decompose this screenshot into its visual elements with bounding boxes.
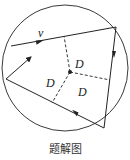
distance-label-right: D xyxy=(77,85,87,99)
dashed-line-bottom xyxy=(52,72,70,103)
bottom-segment xyxy=(6,79,104,128)
top-segment xyxy=(11,27,116,46)
boundary-circle xyxy=(2,5,128,131)
center-point xyxy=(68,70,72,74)
velocity-label: v xyxy=(38,26,44,40)
dashed-line-top xyxy=(64,36,70,72)
diagram-canvas: v D D D 题解图 xyxy=(0,0,130,160)
figure-caption: 题解图 xyxy=(49,142,82,156)
distance-label-left: D xyxy=(45,76,55,90)
dashed-line-right xyxy=(70,72,110,80)
initial-velocity-arrow xyxy=(6,57,31,79)
distance-label-top: D xyxy=(74,57,84,71)
right-segment xyxy=(104,27,116,128)
